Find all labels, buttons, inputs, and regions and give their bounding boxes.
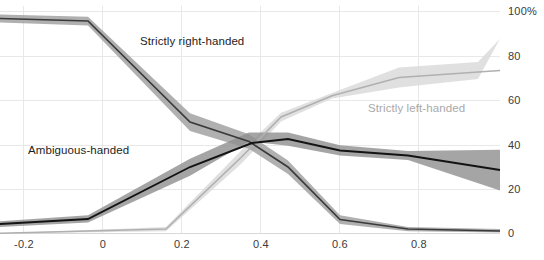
y-tick-label-60: 60 xyxy=(508,94,521,106)
series-annotation-strictly-right-handed: Strictly right-handed xyxy=(140,35,244,47)
chart-plot-area xyxy=(0,0,544,260)
y-tick-label-80: 80 xyxy=(508,50,521,62)
x-tick-label-1: 0 xyxy=(100,238,106,250)
x-tick-label-0: -0.2 xyxy=(14,238,34,250)
y-tick-label-20: 20 xyxy=(508,183,521,195)
x-tick-label-3: 0.4 xyxy=(253,238,269,250)
y-tick-label-40: 40 xyxy=(508,139,521,151)
x-tick-label-5: 0.8 xyxy=(411,238,427,250)
band-strictly-right-handed xyxy=(0,15,500,233)
x-tick-label-2: 0.2 xyxy=(174,238,190,250)
x-tick-label-4: 0.6 xyxy=(332,238,348,250)
series-annotation-ambiguous-handed: Ambiguous-handed xyxy=(28,144,129,156)
y-tick-label-100: 100% xyxy=(508,5,537,17)
series-annotation-strictly-left-handed: Strictly left-handed xyxy=(368,102,465,114)
line-strictly-right-handed xyxy=(0,19,500,232)
y-tick-label-0: 0 xyxy=(508,227,514,239)
chart-container: -0.2 0 0.2 0.4 0.6 0.8 100% 80 60 40 20 … xyxy=(0,0,544,260)
